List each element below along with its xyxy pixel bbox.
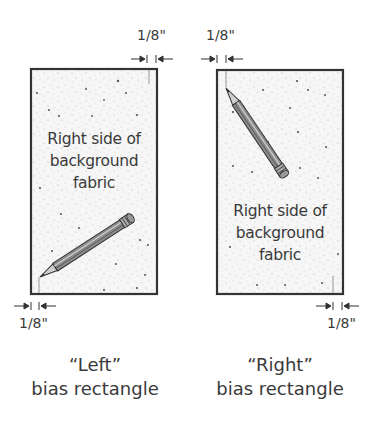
caption-right: “Right” bias rectangle (195, 353, 365, 401)
caption-subtitle: bias rectangle (195, 377, 365, 401)
caption-title: “Right” (195, 353, 365, 377)
dimension-label-right-bottom: 1/8" (327, 315, 356, 331)
dimension-arrow-left-bottom (14, 302, 56, 310)
fabric-label-left: Right side of background fabric (31, 128, 157, 194)
fabric-label-line: Right side of (217, 200, 343, 222)
fabric-label-line: background (217, 222, 343, 244)
fabric-label-line: fabric (31, 172, 157, 194)
caption-title: “Left” (10, 353, 180, 377)
fabric-label-right: Right side of background fabric (217, 200, 343, 266)
dimension-arrow-right-bottom (316, 302, 359, 310)
dimension-arrow-right-top (201, 55, 243, 63)
dimension-arrow-left-top (131, 55, 173, 63)
dimension-label-left-top: 1/8" (137, 27, 166, 43)
fabric-label-line: fabric (217, 244, 343, 266)
caption-left: “Left” bias rectangle (10, 353, 180, 401)
fabric-label-line: background (31, 150, 157, 172)
dimension-label-right-top: 1/8" (206, 27, 235, 43)
caption-subtitle: bias rectangle (10, 377, 180, 401)
dimension-label-left-bottom: 1/8" (19, 315, 48, 331)
fabric-label-line: Right side of (31, 128, 157, 150)
